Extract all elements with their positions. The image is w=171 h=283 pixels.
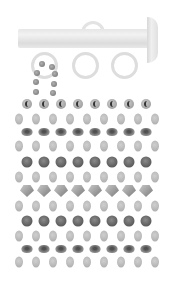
- oval-bead: [100, 114, 108, 125]
- rondelle-bead: [124, 128, 135, 136]
- dark-round-bead: [39, 157, 50, 168]
- rondelle-bead: [90, 245, 101, 253]
- rondelle-bead: [56, 245, 67, 253]
- rondelle-bead: [56, 128, 67, 136]
- rondelle-bead: [141, 245, 152, 253]
- oval-bead: [117, 141, 125, 152]
- oval-bead: [100, 201, 108, 212]
- oval-bead: [15, 141, 23, 152]
- oval-bead: [66, 114, 74, 125]
- dark-round-bead: [141, 216, 152, 227]
- oval-bead: [117, 231, 125, 242]
- oval-bead: [49, 257, 57, 268]
- oval-bead: [117, 114, 125, 125]
- oval-bead: [66, 201, 74, 212]
- oval-bead: [15, 201, 23, 212]
- oval-bead: [151, 114, 159, 125]
- dark-round-bead: [90, 157, 101, 168]
- c-bead-bead: [39, 99, 49, 109]
- rondelle-bead: [107, 128, 118, 136]
- bicone-bead: [37, 185, 51, 197]
- oval-bead: [83, 201, 91, 212]
- oval-bead: [100, 172, 108, 183]
- oval-bead: [15, 172, 23, 183]
- oval-bead: [49, 141, 57, 152]
- c-bead-bead: [73, 99, 83, 109]
- oval-bead: [134, 231, 142, 242]
- c-bead-bead: [141, 99, 151, 109]
- bicone-bead: [54, 185, 68, 197]
- rondelle-bead: [22, 245, 33, 253]
- rondelle-bead: [124, 245, 135, 253]
- c-bead-bead: [22, 99, 32, 109]
- oval-bead: [49, 231, 57, 242]
- dark-round-bead: [73, 157, 84, 168]
- curtain-ring: [111, 52, 138, 79]
- curtain-ring: [72, 52, 99, 79]
- oval-bead: [15, 257, 23, 268]
- rondelle-bead: [39, 128, 50, 136]
- strand-bead: [39, 61, 45, 67]
- oval-bead: [151, 201, 159, 212]
- c-bead-bead: [124, 99, 134, 109]
- oval-bead: [151, 257, 159, 268]
- dark-round-bead: [22, 216, 33, 227]
- oval-bead: [117, 201, 125, 212]
- rondelle-bead: [107, 245, 118, 253]
- rondelle-bead: [73, 128, 84, 136]
- dark-round-bead: [39, 216, 50, 227]
- oval-bead: [32, 141, 40, 152]
- oval-bead: [100, 231, 108, 242]
- strand-bead: [33, 89, 39, 95]
- bicone-bead: [139, 185, 153, 197]
- dark-round-bead: [141, 157, 152, 168]
- bicone-bead: [105, 185, 119, 197]
- strand-bead: [51, 81, 57, 87]
- rondelle-bead: [73, 245, 84, 253]
- bicone-bead: [71, 185, 85, 197]
- oval-bead: [49, 201, 57, 212]
- oval-bead: [66, 231, 74, 242]
- oval-bead: [134, 172, 142, 183]
- dark-round-bead: [124, 216, 135, 227]
- oval-bead: [134, 114, 142, 125]
- oval-bead: [83, 257, 91, 268]
- strand-bead: [34, 70, 40, 76]
- oval-bead: [66, 172, 74, 183]
- oval-bead: [49, 172, 57, 183]
- oval-bead: [100, 257, 108, 268]
- oval-bead: [15, 114, 23, 125]
- bicone-bead: [20, 185, 34, 197]
- oval-bead: [66, 141, 74, 152]
- oval-bead: [134, 201, 142, 212]
- dark-round-bead: [107, 216, 118, 227]
- strand-bead: [49, 64, 55, 70]
- rondelle-bead: [22, 128, 33, 136]
- oval-bead: [66, 257, 74, 268]
- c-bead-bead: [107, 99, 117, 109]
- dark-round-bead: [22, 157, 33, 168]
- oval-bead: [134, 257, 142, 268]
- oval-bead: [151, 231, 159, 242]
- oval-bead: [49, 114, 57, 125]
- bicone-bead: [122, 185, 136, 197]
- dark-round-bead: [107, 157, 118, 168]
- oval-bead: [100, 141, 108, 152]
- rondelle-bead: [90, 128, 101, 136]
- oval-bead: [83, 141, 91, 152]
- bicone-bead: [88, 185, 102, 197]
- oval-bead: [32, 231, 40, 242]
- rod-finial: [147, 17, 158, 63]
- curtain-rod: [18, 29, 150, 48]
- oval-bead: [151, 141, 159, 152]
- c-bead-bead: [90, 99, 100, 109]
- oval-bead: [134, 141, 142, 152]
- dark-round-bead: [73, 216, 84, 227]
- oval-bead: [83, 231, 91, 242]
- dark-round-bead: [124, 157, 135, 168]
- dark-round-bead: [56, 157, 67, 168]
- rondelle-bead: [141, 128, 152, 136]
- oval-bead: [151, 172, 159, 183]
- oval-bead: [117, 257, 125, 268]
- oval-bead: [15, 231, 23, 242]
